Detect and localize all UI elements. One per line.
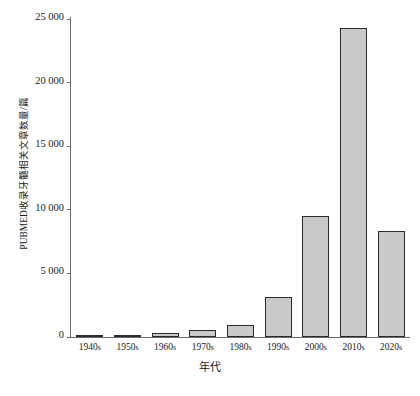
x-axis-tick-label: 2010s xyxy=(335,341,373,354)
bar xyxy=(152,333,179,337)
x-axis-title: 年代 xyxy=(0,358,420,374)
x-axis-tick-label: 1950s xyxy=(109,341,147,354)
x-axis-tick-label: 1990s xyxy=(259,341,297,354)
bar xyxy=(227,325,254,337)
y-axis-tick-label: 5 000 xyxy=(40,265,64,276)
y-axis-ticks: 05 00010 00015 00020 00025 000 xyxy=(0,0,70,396)
x-axis-line xyxy=(70,337,410,338)
y-axis-tick-label: 0 xyxy=(59,329,64,340)
x-axis-tick-label: 1940s xyxy=(71,341,109,354)
x-axis-tick-label: 1970s xyxy=(184,341,222,354)
bar xyxy=(302,216,329,337)
y-axis-tick-label: 25 000 xyxy=(35,11,64,22)
y-axis-tick-label: 10 000 xyxy=(35,202,64,213)
y-axis-tick-label: 15 000 xyxy=(35,138,64,149)
x-axis-tick-label: 1980s xyxy=(222,341,260,354)
bar xyxy=(265,297,292,337)
bar-chart: PUBMED收录牙髓相关文章数量/篇 05 00010 00015 00020 … xyxy=(0,0,420,396)
bar xyxy=(378,231,405,337)
x-axis-tick-label: 1960s xyxy=(146,341,184,354)
bar xyxy=(76,335,103,338)
x-axis-tick-label: 2000s xyxy=(297,341,335,354)
x-axis-tick-label: 2020s xyxy=(372,341,410,354)
bar xyxy=(189,330,216,337)
y-axis-tick-label: 20 000 xyxy=(35,75,64,86)
plot-area xyxy=(71,19,410,337)
bar xyxy=(340,28,367,337)
bar xyxy=(114,335,141,338)
